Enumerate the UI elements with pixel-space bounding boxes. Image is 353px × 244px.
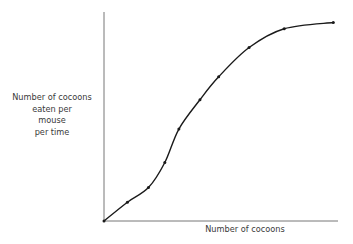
data-point-marker <box>177 128 180 131</box>
data-curve <box>104 22 333 221</box>
x-axis-label: Number of cocoons <box>180 224 310 234</box>
data-point-marker <box>163 161 166 164</box>
y-axis-label-line-3: mouse <box>2 115 102 127</box>
y-axis-label-line-1: Number of cocoons <box>2 92 102 104</box>
y-axis-label-line-4: per time <box>2 127 102 139</box>
data-point-marker <box>217 75 220 78</box>
data-point-marker <box>332 21 335 24</box>
data-point-marker <box>126 201 129 204</box>
data-markers <box>103 21 335 223</box>
data-point-marker <box>198 98 201 101</box>
data-point-marker <box>248 46 251 49</box>
data-point-marker <box>283 27 286 30</box>
data-point-marker <box>147 186 150 189</box>
y-axis-label: Number of cocoons eaten per mouse per ti… <box>2 92 102 138</box>
y-axis-label-line-2: eaten per <box>2 104 102 116</box>
data-point-marker <box>103 220 106 223</box>
